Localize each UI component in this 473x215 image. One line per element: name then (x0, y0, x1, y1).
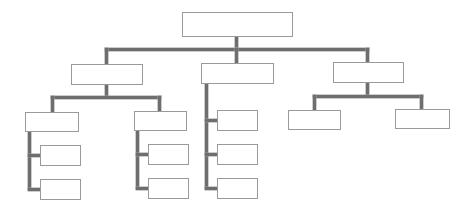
connector-line (136, 131, 139, 189)
connector-line (313, 95, 316, 110)
connector-line (420, 95, 423, 109)
org-node-l2-middle-3[interactable] (217, 178, 258, 199)
connector-line (205, 119, 217, 122)
org-node-l1-middle[interactable] (201, 63, 274, 84)
org-node-l2-right-b[interactable] (395, 109, 450, 129)
org-node-l2-right-a[interactable] (288, 110, 341, 130)
org-node-l1-right[interactable] (333, 62, 404, 83)
connector-line (51, 96, 54, 112)
org-node-root[interactable] (182, 12, 293, 37)
org-node-l3-left-b-1[interactable] (148, 144, 189, 165)
org-node-l3-left-b-2[interactable] (148, 178, 189, 199)
connector-line (51, 96, 161, 99)
connector-line (205, 187, 217, 190)
connector-line (313, 95, 423, 98)
connector-line (28, 132, 31, 190)
org-node-l3-left-a-2[interactable] (40, 179, 81, 200)
connector-line (205, 153, 217, 156)
connector-line (205, 84, 208, 189)
connector-line (136, 153, 148, 156)
org-node-l2-middle-1[interactable] (217, 110, 258, 131)
connector-line (235, 48, 238, 63)
org-node-l2-middle-2[interactable] (217, 144, 258, 165)
org-node-l2-left-a[interactable] (25, 112, 79, 132)
org-node-l2-left-b[interactable] (134, 111, 187, 131)
org-chart-canvas (0, 0, 473, 215)
connector-line (28, 154, 40, 157)
connector-line (136, 187, 148, 190)
connector-line (366, 48, 369, 62)
org-node-l3-left-a-1[interactable] (40, 145, 81, 166)
connector-line (158, 96, 161, 111)
connector-line (28, 188, 40, 191)
connector-line (105, 48, 108, 64)
org-node-l1-left[interactable] (71, 64, 143, 85)
